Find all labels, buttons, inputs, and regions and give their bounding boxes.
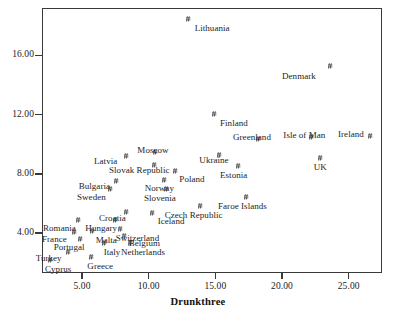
data-point-label: Slovak Republic: [109, 165, 170, 175]
x-axis-tick-label: 20.00: [262, 281, 302, 291]
scatter-chart: 4.008.0012.0016.00 5.0010.0015.0020.0025…: [0, 0, 396, 315]
data-point-label: Netherlands: [121, 247, 165, 257]
y-axis-tick-label: 8.00: [17, 168, 34, 178]
data-point-label: Portugal: [54, 242, 85, 252]
data-point-label: Finland: [220, 118, 248, 128]
data-point-label: Bulgaria: [79, 181, 110, 191]
data-point-label: Hungary: [85, 223, 117, 233]
y-axis-tick-label: 4.00: [17, 227, 34, 237]
data-point-label: Lithuania: [195, 23, 230, 33]
y-axis-tick-label: 12.00: [12, 109, 34, 119]
data-point-label: Croatia: [99, 213, 126, 223]
x-axis-tick: [81, 273, 83, 279]
x-axis-tick-label: 15.00: [195, 281, 235, 291]
y-axis-tick: [35, 114, 42, 116]
y-axis-tick: [35, 55, 42, 57]
x-axis-tick: [348, 273, 350, 279]
x-axis-tick: [148, 273, 150, 279]
data-point-label: UK: [314, 162, 327, 172]
data-point-label: Faroe Islands: [218, 201, 267, 211]
y-axis-tick: [35, 232, 42, 234]
data-point-label: Denmark: [282, 71, 316, 81]
data-point-label: Ireland: [338, 129, 364, 139]
data-point-label: Romania: [43, 223, 76, 233]
data-point-label: Greenland: [233, 132, 271, 142]
data-point-label: Cyprus: [45, 264, 71, 274]
data-point-label: Italy: [104, 247, 121, 257]
data-point-label: Norway: [145, 183, 174, 193]
x-axis-tick: [281, 273, 283, 279]
data-point-label: Malta: [96, 235, 117, 245]
data-point-label: Sweden: [77, 192, 106, 202]
data-point-label: Greece: [87, 261, 113, 271]
data-point-label: Iceland: [158, 216, 185, 226]
y-axis-tick: [35, 173, 42, 175]
x-axis-title: Drunkthree: [0, 296, 396, 307]
data-point-label: Isle of Man: [283, 130, 325, 140]
data-point-label: Moscow: [137, 145, 168, 155]
x-axis-tick-label: 5.00: [62, 281, 102, 291]
data-point-label: Poland: [179, 174, 204, 184]
x-axis-tick-label: 25.00: [329, 281, 369, 291]
data-point-label: Slovenia: [144, 193, 176, 203]
data-point-label: Estonia: [220, 170, 247, 180]
data-point-label: Ukraine: [199, 155, 228, 165]
x-axis-tick: [215, 273, 217, 279]
data-point-label: Turkey: [36, 253, 62, 263]
x-axis-tick-label: 10.00: [129, 281, 169, 291]
y-axis-tick-label: 16.00: [12, 49, 34, 59]
